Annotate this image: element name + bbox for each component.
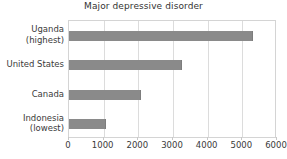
x-axis-tick-label: 6000 xyxy=(265,140,287,150)
bar-row xyxy=(69,21,275,51)
bar[interactable] xyxy=(69,90,141,100)
x-axis-tick-labels: 0100020003000400050006000 xyxy=(68,140,276,156)
x-axis-tick-label: 1000 xyxy=(92,140,114,150)
y-axis-label: Uganda(highest) xyxy=(0,20,64,50)
bar[interactable] xyxy=(69,31,253,41)
y-axis-label: Canada xyxy=(0,79,64,109)
bar-row xyxy=(69,51,275,81)
y-axis-label-line: Uganda xyxy=(31,24,64,35)
bar-row xyxy=(69,80,275,110)
x-axis-tick-label: 2000 xyxy=(127,140,149,150)
y-axis-label-line: (lowest) xyxy=(30,123,64,134)
x-axis-tick-label: 5000 xyxy=(231,140,253,150)
chart-title: Major depressive disorder xyxy=(0,1,287,11)
y-axis-label-line: Indonesia xyxy=(23,113,64,124)
y-axis-label-line: Canada xyxy=(32,89,64,100)
plot-area xyxy=(68,20,276,138)
bar[interactable] xyxy=(69,60,182,70)
y-axis-label: Indonesia(lowest) xyxy=(0,109,64,139)
y-axis-label-line: (highest) xyxy=(26,35,64,46)
y-axis-label: United States xyxy=(0,50,64,80)
bar[interactable] xyxy=(69,119,106,129)
bar-row xyxy=(69,110,275,140)
bars-container xyxy=(69,21,275,137)
y-axis-category-labels: Uganda(highest)United StatesCanadaIndone… xyxy=(0,20,64,138)
bar-chart: Major depressive disorder Uganda(highest… xyxy=(0,0,287,159)
x-axis-tick-label: 3000 xyxy=(161,140,183,150)
y-axis-label-line: United States xyxy=(6,59,64,70)
x-axis-tick-label: 0 xyxy=(65,140,70,150)
x-axis-tick-label: 4000 xyxy=(196,140,218,150)
